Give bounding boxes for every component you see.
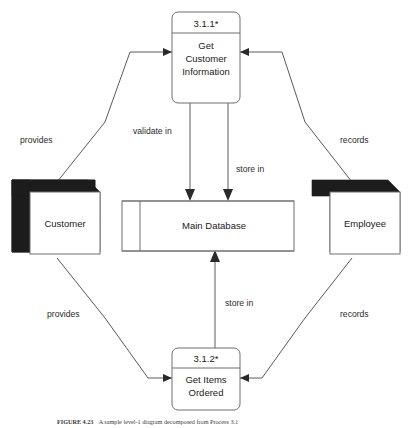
data-flow-diagram: Main Database Customer Employee 3.1.1* G… — [0, 0, 411, 428]
dfd-canvas: Main Database Customer Employee 3.1.1* G… — [0, 0, 411, 428]
figure-caption-text: A sample level-1 diagram decomposed from… — [99, 418, 239, 425]
figure-caption-label: FIGURE 4.23 — [57, 418, 93, 425]
process-get-customer-information-name-line1: Get — [198, 40, 214, 51]
process-get-items-ordered-name-line2: Ordered — [189, 387, 224, 398]
flow-get-customer-information-validate-in — [185, 103, 195, 201]
entity-customer-label: Customer — [44, 218, 85, 229]
flow-get-customer-information-store-in — [223, 103, 233, 201]
figure-caption: FIGURE 4.23 A sample level-1 diagram dec… — [57, 418, 238, 425]
flow-get-items-ordered-store-in — [210, 250, 220, 362]
flow-employee-to-get-items-ordered — [240, 258, 352, 382]
flow-label-provides-bottom: provides — [47, 309, 79, 319]
process-get-customer-information-name-line2: Customer — [185, 53, 226, 64]
datastore-main-database-label: Main Database — [182, 220, 246, 231]
entity-employee-label: Employee — [344, 218, 386, 229]
datastore-main-database[interactable]: Main Database — [122, 201, 294, 251]
flow-label-records-top: records — [340, 135, 369, 145]
process-get-customer-information-id: 3.1.1* — [194, 18, 219, 29]
process-get-items-ordered-name-line1: Get Items — [185, 374, 226, 385]
entity-customer[interactable]: Customer — [12, 180, 100, 254]
svg-text:FIGURE 4.23 A sample lev: FIGURE 4.23 A sample level-1 diagram dec… — [57, 418, 238, 425]
flow-label-validate-in: validate in — [133, 126, 172, 136]
entity-employee[interactable]: Employee — [312, 180, 400, 254]
flow-label-records-bottom: records — [340, 309, 369, 319]
flow-label-store-in-top: store in — [236, 164, 264, 174]
flow-employee-to-get-customer-information — [240, 48, 352, 182]
flow-customer-to-get-items-ordered — [57, 258, 172, 382]
process-get-items-ordered-id: 3.1.2* — [194, 353, 219, 364]
flow-label-provides-top: provides — [20, 135, 52, 145]
flow-label-store-in-bottom: store in — [225, 298, 253, 308]
process-get-items-ordered[interactable]: 3.1.2* Get Items Ordered — [172, 348, 240, 410]
flow-customer-to-get-customer-information — [57, 48, 172, 182]
process-get-customer-information[interactable]: 3.1.1* Get Customer Information — [172, 12, 240, 103]
process-get-customer-information-name-line3: Information — [182, 66, 230, 77]
